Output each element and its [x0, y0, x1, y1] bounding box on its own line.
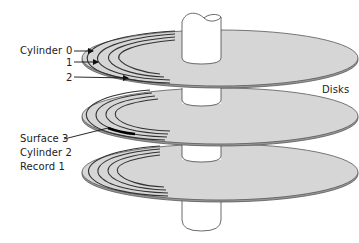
label-cylinder-0: 0 — [66, 45, 72, 57]
label-cylinder-1: 1 — [66, 57, 72, 69]
label-cylinder-ref: Cylinder 2 — [20, 147, 72, 159]
label-surface-3: Surface 3 — [20, 133, 69, 145]
label-cylinder: Cylinder — [20, 45, 62, 57]
disk-pack-diagram — [0, 0, 359, 243]
label-record-1: Record 1 — [20, 161, 65, 173]
disk-3 — [82, 144, 358, 202]
pointer-surface-3 — [64, 128, 108, 139]
label-cylinder-2: 2 — [66, 72, 72, 84]
disk-2 — [82, 88, 358, 146]
spindle-top — [182, 13, 221, 64]
label-disks: Disks — [322, 84, 349, 96]
